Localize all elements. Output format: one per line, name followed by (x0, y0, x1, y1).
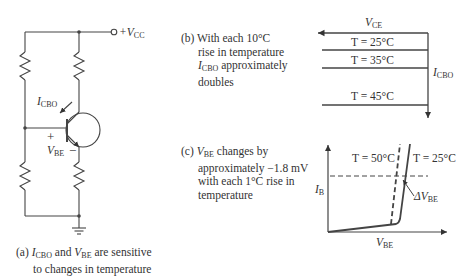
caption-b: (b) With each 10°C rise in temperature I… (181, 32, 288, 89)
vbe-axis-label: VBE (376, 236, 393, 252)
icbo-label: ICBO (37, 95, 57, 111)
t25-label: T = 25°C (413, 152, 456, 165)
icbo-axis-label: ICBO (433, 66, 453, 82)
curve-label-35: T = 35°C (351, 54, 394, 67)
vbe-plus: + (47, 130, 54, 143)
curve-label-45: T = 45°C (351, 90, 394, 103)
vbe-label: VBE (47, 144, 64, 160)
vce-label: VCE (365, 16, 382, 32)
caption-a: (a) ICBO and VBE are sensitive to change… (16, 246, 152, 276)
circuit-schematic (20, 29, 117, 234)
temperature-sensitivity-figure: +VCC ICBO + − VBE (a) ICBO and VBE are s… (0, 0, 469, 280)
caption-c: (c) VBE changes by approximately −1.8 mV… (181, 145, 308, 202)
vcc-label: +VCC (119, 26, 144, 42)
vbe-minus: − (69, 144, 76, 157)
delta-vbe-label: ΔVBE (414, 190, 438, 206)
curve-label-25: T = 25°C (351, 36, 394, 49)
ib-axis-label: IB (315, 183, 324, 199)
t50-label: T = 50°C (352, 152, 395, 165)
